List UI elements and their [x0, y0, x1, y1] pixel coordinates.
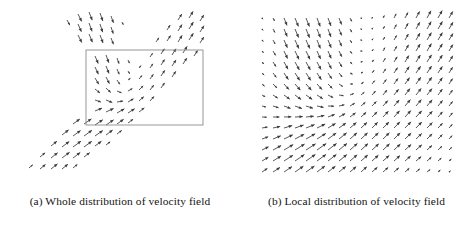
velocity-vector	[111, 27, 114, 34]
velocity-vector	[328, 143, 337, 150]
velocity-vector	[328, 73, 332, 79]
velocity-vector	[427, 145, 432, 150]
velocity-vector	[262, 157, 268, 161]
velocity-vector	[328, 51, 331, 58]
velocity-vector	[328, 154, 336, 161]
velocity-vector	[284, 155, 293, 161]
velocity-vector	[200, 26, 204, 32]
velocity-vector	[95, 89, 100, 93]
velocity-vector	[128, 119, 133, 123]
velocity-vector	[383, 111, 388, 117]
velocity-vector	[273, 116, 279, 118]
velocity-vector	[306, 95, 312, 99]
velocity-vector	[350, 29, 352, 32]
velocity-vector	[284, 135, 293, 139]
velocity-vector	[438, 158, 441, 161]
velocity-vector	[194, 50, 198, 56]
velocity-vector	[372, 81, 375, 84]
velocity-vector	[51, 164, 57, 169]
velocity-vector	[328, 114, 335, 117]
velocity-vector	[139, 108, 144, 112]
velocity-vector	[339, 73, 342, 77]
velocity-vector	[350, 167, 356, 172]
velocity-vector	[172, 60, 176, 66]
velocity-vector	[161, 83, 165, 88]
velocity-vector	[317, 84, 322, 90]
roi-selection-rectangle[interactable]	[86, 50, 203, 125]
velocity-vector	[67, 20, 70, 25]
velocity-vector	[295, 115, 303, 118]
velocity-vector	[262, 168, 267, 172]
velocity-vector	[117, 58, 119, 64]
caption-panel-b: (b) Local distribution of velocity field	[240, 190, 473, 212]
velocity-vector	[262, 95, 265, 97]
velocity-vector	[284, 106, 291, 109]
velocity-vector	[449, 124, 452, 128]
velocity-vector	[339, 166, 346, 172]
velocity-vector	[128, 78, 130, 80]
velocity-vector	[328, 62, 331, 69]
velocity-vector	[449, 101, 453, 106]
velocity-vector	[306, 29, 310, 38]
velocity-vector	[106, 100, 112, 103]
velocity-vector	[111, 16, 114, 23]
velocity-vector	[261, 28, 263, 30]
velocity-field-figure: (a) Whole distribution of velocity field…	[0, 0, 473, 225]
velocity-vector	[84, 153, 90, 157]
velocity-vector	[317, 133, 326, 139]
velocity-vector	[167, 35, 171, 41]
velocity-vector	[128, 99, 134, 102]
velocity-vector	[449, 136, 452, 139]
velocity-vector	[139, 97, 144, 101]
velocity-vector	[427, 111, 432, 117]
velocity-vector	[100, 35, 103, 43]
velocity-vector	[295, 166, 303, 172]
velocity-vector	[117, 80, 120, 84]
velocity-vector	[438, 55, 442, 62]
velocity-vector	[383, 48, 385, 51]
velocity-vector	[405, 133, 411, 139]
velocity-vector	[73, 164, 77, 168]
velocity-vector	[372, 112, 377, 117]
velocity-vector	[438, 135, 442, 139]
velocity-vector	[284, 40, 287, 48]
velocity-vector	[295, 62, 299, 70]
velocity-vector	[295, 106, 302, 109]
velocity-vector	[306, 51, 310, 59]
velocity-vector	[394, 68, 398, 73]
velocity-vector	[317, 62, 321, 70]
velocity-vector	[84, 141, 92, 147]
velocity-vector	[339, 104, 344, 106]
velocity-vector	[317, 40, 321, 48]
velocity-vector	[427, 55, 432, 62]
velocity-vector	[394, 168, 399, 172]
velocity-vector	[394, 35, 397, 40]
velocity-vector	[139, 75, 142, 79]
velocity-vector	[89, 12, 92, 20]
velocity-vector	[117, 100, 123, 102]
velocity-vector	[78, 35, 82, 43]
velocity-vector	[416, 33, 420, 40]
velocity-vector	[84, 119, 91, 124]
velocity-vector	[416, 111, 422, 117]
velocity-vector	[62, 141, 69, 147]
velocity-vector	[383, 69, 386, 73]
velocity-vector	[284, 125, 292, 128]
velocity-vector	[361, 72, 363, 74]
velocity-vector	[405, 56, 409, 62]
velocity-vector	[106, 108, 114, 112]
velocity-vector	[416, 88, 421, 95]
velocity-vector	[383, 37, 385, 40]
velocity-vector	[339, 84, 343, 87]
velocity-vector	[328, 29, 331, 37]
velocity-vector	[449, 22, 453, 29]
velocity-vector	[106, 77, 109, 84]
velocity-vector	[350, 155, 357, 161]
velocity-vector	[95, 56, 98, 64]
velocity-vector	[150, 53, 153, 57]
velocity-vector	[262, 51, 264, 53]
velocity-vector	[394, 57, 397, 62]
velocity-vector	[427, 22, 431, 29]
velocity-vector	[306, 73, 311, 80]
velocity-vector	[449, 171, 451, 173]
